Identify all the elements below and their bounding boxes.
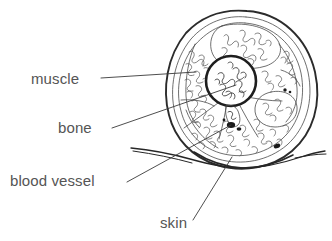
skin-flap bbox=[131, 148, 326, 168]
compartment-lateral bbox=[255, 91, 297, 127]
blood-vessel-lateral-a bbox=[283, 88, 286, 91]
leader-line-bone bbox=[112, 85, 236, 128]
label-blood-vessel: blood vessel bbox=[10, 172, 95, 189]
diagram-labels: muscle bone blood vessel skin bbox=[10, 70, 187, 231]
limb-cross-section-illustration: muscle bone blood vessel skin bbox=[0, 0, 332, 241]
diagram-canvas: muscle bone blood vessel skin bbox=[0, 0, 332, 241]
blood-vessel-secondary bbox=[237, 127, 242, 131]
bone-cortex bbox=[206, 56, 256, 106]
leader-line-skin bbox=[193, 157, 232, 220]
label-skin: skin bbox=[160, 214, 187, 231]
leader-line-muscle bbox=[101, 72, 196, 78]
label-muscle: muscle bbox=[31, 70, 79, 87]
blood-vessel-small bbox=[223, 119, 226, 122]
leader-line-blood-vessel bbox=[127, 125, 231, 182]
septum-right-upper bbox=[281, 70, 300, 86]
label-bone: bone bbox=[58, 119, 92, 136]
bone-structure bbox=[206, 56, 256, 127]
blood-vessel-posterior bbox=[273, 143, 281, 150]
blood-vessel-lateral-b bbox=[289, 91, 292, 94]
